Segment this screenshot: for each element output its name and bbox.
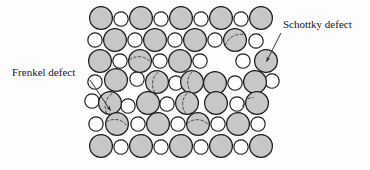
small-ion bbox=[228, 76, 242, 90]
small-ion bbox=[251, 117, 265, 131]
large-ion bbox=[181, 71, 204, 94]
large-ion bbox=[130, 135, 153, 158]
lattice-defect-figure: Schottky defectFrenkel defect bbox=[0, 0, 370, 170]
small-ion bbox=[89, 117, 103, 131]
large-ion bbox=[130, 7, 153, 30]
large-ion bbox=[246, 92, 269, 115]
small-ion bbox=[194, 12, 208, 26]
large-ion bbox=[227, 113, 250, 136]
label-schottky: Schottky defect bbox=[283, 18, 352, 30]
large-ion bbox=[137, 92, 160, 115]
large-ion bbox=[176, 92, 199, 115]
large-ion bbox=[129, 50, 152, 73]
large-ion bbox=[90, 7, 113, 30]
large-ion bbox=[187, 113, 210, 136]
large-ion bbox=[224, 29, 247, 52]
small-ion bbox=[121, 99, 135, 113]
large-ion bbox=[170, 135, 193, 158]
large-ion bbox=[90, 135, 113, 158]
small-ion bbox=[236, 54, 250, 68]
small-ion bbox=[194, 140, 208, 154]
large-ion bbox=[105, 69, 128, 92]
large-ion bbox=[147, 113, 170, 136]
large-ion bbox=[244, 71, 267, 94]
large-ion bbox=[210, 7, 233, 30]
large-ion bbox=[250, 7, 273, 30]
small-ion bbox=[230, 97, 244, 111]
small-ion bbox=[211, 117, 225, 131]
small-ion bbox=[234, 140, 248, 154]
small-ion bbox=[208, 33, 222, 47]
small-ion bbox=[131, 117, 145, 131]
large-ion bbox=[144, 29, 167, 52]
large-ion bbox=[184, 29, 207, 52]
label-frenkel: Frenkel defect bbox=[12, 66, 75, 78]
large-ion bbox=[210, 135, 233, 158]
small-ion bbox=[154, 140, 168, 154]
small-ion bbox=[85, 94, 99, 108]
large-ion bbox=[104, 29, 127, 52]
large-ion bbox=[250, 135, 273, 158]
small-ion bbox=[130, 72, 144, 86]
small-ion bbox=[113, 54, 127, 68]
small-ion bbox=[153, 54, 167, 68]
small-ion bbox=[160, 97, 174, 111]
small-ion bbox=[114, 140, 128, 154]
large-ion bbox=[205, 92, 228, 115]
small-ion bbox=[168, 33, 182, 47]
large-ion bbox=[89, 50, 112, 73]
large-ion bbox=[204, 72, 227, 95]
small-ion bbox=[128, 33, 142, 47]
large-ion bbox=[169, 50, 192, 73]
small-ion bbox=[154, 12, 168, 26]
small-ion bbox=[114, 12, 128, 26]
small-ion bbox=[249, 34, 263, 48]
small-ion bbox=[234, 12, 248, 26]
small-ion bbox=[171, 117, 185, 131]
small-ion bbox=[193, 54, 207, 68]
large-ion bbox=[255, 50, 278, 73]
large-ion bbox=[170, 7, 193, 30]
small-ion bbox=[88, 33, 102, 47]
